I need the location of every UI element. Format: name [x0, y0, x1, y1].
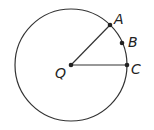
label-c: C [131, 61, 141, 77]
point-a [108, 23, 113, 28]
label-b: B [128, 34, 138, 50]
label-a: A [113, 11, 124, 27]
label-q: Q [55, 65, 66, 81]
point-b [120, 41, 125, 46]
point-c [125, 63, 130, 68]
point-q [69, 63, 74, 68]
radius-qa [71, 25, 110, 65]
circle-diagram: A B C Q [0, 0, 154, 130]
